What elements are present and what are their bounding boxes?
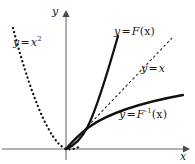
x-axis-label: x xyxy=(180,151,186,162)
inverse-function-graph-figure: y x y=x2 y=F(x) y=x y=F-1(x) xyxy=(0,0,195,164)
label-inverse-fn: F xyxy=(137,108,145,121)
label-parabola-exponent: 2 xyxy=(37,35,42,43)
graph-canvas xyxy=(0,0,195,164)
label-forward-fn: F xyxy=(132,25,140,38)
label-forward-function: y=F(x) xyxy=(114,26,155,37)
label-parabola-operator: = xyxy=(19,36,30,49)
label-inverse-operator: = xyxy=(125,108,136,121)
y-axis-arrowhead xyxy=(62,10,69,17)
label-identity-rhs: x xyxy=(159,62,165,75)
label-forward-operator: = xyxy=(120,25,131,38)
y-axis-label: y xyxy=(52,6,58,17)
label-inverse-function: y=F-1(x) xyxy=(119,109,167,120)
inverse-function-curve-F-inverse xyxy=(66,95,183,149)
forward-function-curve-F xyxy=(66,36,118,149)
label-parabola-y-equals-x-squared: y=x2 xyxy=(13,37,42,48)
label-inverse-arg: (x) xyxy=(152,108,167,121)
label-inverse-exponent: -1 xyxy=(145,107,152,115)
label-identity-line: y=x xyxy=(141,63,165,74)
label-forward-arg: (x) xyxy=(140,25,155,38)
label-identity-operator: = xyxy=(147,62,158,75)
